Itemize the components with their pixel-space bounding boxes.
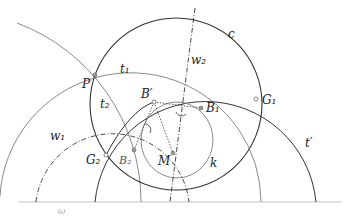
point-P: [93, 73, 97, 77]
label-t2: t₂: [100, 97, 110, 111]
point-G1: [254, 97, 258, 101]
arc-inner-dark: [106, 102, 154, 155]
angle-mark-1: [176, 112, 186, 116]
label-w2: w₂: [191, 53, 206, 67]
angle-mark-2: [145, 124, 151, 133]
label-B1: B₁: [205, 101, 220, 115]
label-B-prime: B′: [140, 87, 153, 101]
label-w1: w₁: [50, 129, 65, 143]
label-B2: B₂: [118, 154, 132, 167]
point-B1: [199, 106, 203, 110]
label-t1: t₁: [120, 62, 130, 76]
point-M: [171, 151, 175, 155]
label-c: c: [228, 27, 235, 41]
label-P: P: [81, 77, 91, 91]
point-G2: [104, 153, 108, 157]
label-G2: G₂: [86, 153, 101, 167]
label-M: M: [157, 154, 171, 168]
segment-Bprime-B2: [134, 102, 154, 150]
label-k: k: [210, 156, 217, 170]
point-B2: [132, 148, 136, 152]
label-t-prime: t′: [305, 136, 313, 150]
label-G1: G₁: [262, 93, 276, 107]
point-B-prime: [152, 100, 156, 104]
label-omega: ω: [58, 206, 66, 216]
circle-c: [90, 18, 262, 190]
geometry-diagram: c w₂ t₁ P t₂ B′ B₁ G₁ w₁ G₂ B₂ M k t′ ω: [0, 0, 356, 221]
arc-t2: [17, 23, 141, 202]
